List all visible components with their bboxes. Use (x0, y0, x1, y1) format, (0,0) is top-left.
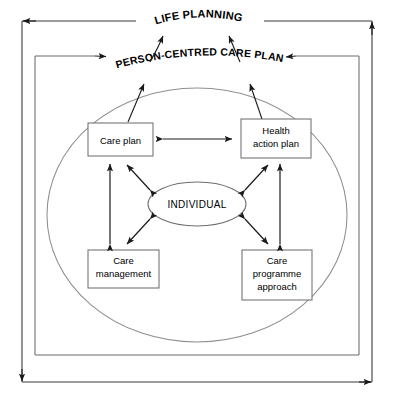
box-care-plan: Care plan (88, 123, 153, 156)
box-care-programme-approach-label-line3: approach (257, 281, 297, 292)
diagram-canvas: LIFE PLANNING PERSON-CENTRED CARE PLAN C… (0, 0, 394, 405)
box-health-action-plan-label-line2: action plan (253, 138, 299, 149)
box-care-programme-approach-label-line1: Care (267, 255, 288, 266)
box-care-programme-approach: Care programme approach (242, 250, 312, 300)
life-planning-diagram: LIFE PLANNING PERSON-CENTRED CARE PLAN C… (0, 0, 394, 405)
box-care-management-label-line2: management (96, 268, 152, 279)
individual-oval: INDIVIDUAL (148, 182, 246, 226)
box-care-management: Care management (88, 250, 159, 288)
box-care-plan-label: Care plan (100, 135, 141, 146)
arrow-inner-left-to-label (95, 56, 106, 57)
box-health-action-plan: Health action plan (241, 119, 311, 158)
box-care-management-label-line1: Care (113, 255, 134, 266)
box-care-programme-approach-label-line2: programme (253, 268, 302, 279)
individual-oval-label: INDIVIDUAL (167, 199, 226, 210)
box-health-action-plan-label-line1: Health (262, 125, 289, 136)
